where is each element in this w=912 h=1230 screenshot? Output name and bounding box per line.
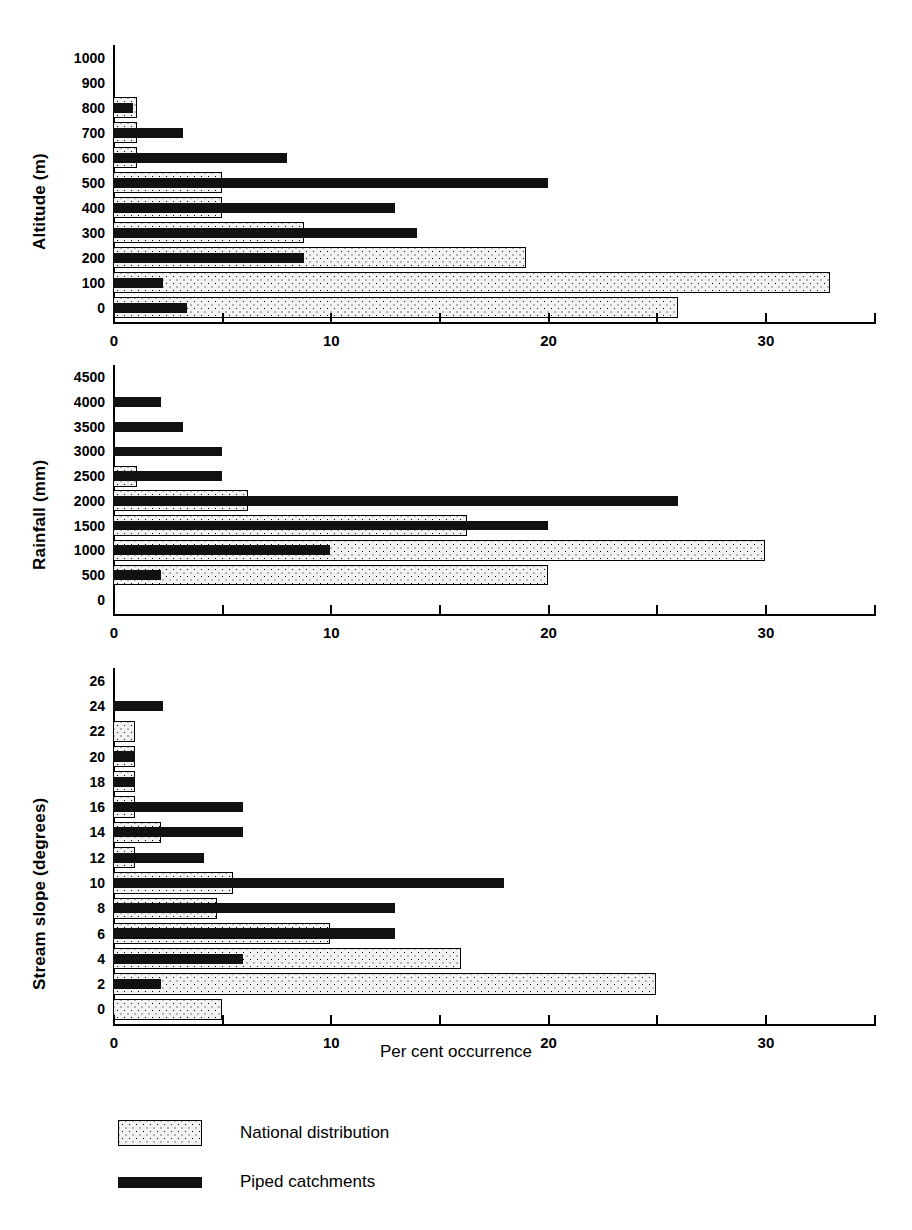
x-tick-label: 20 <box>540 332 557 349</box>
plot-area-1: 01002003004005006007008009001000 <box>113 45 874 320</box>
x-axis-line <box>113 1024 876 1026</box>
bar-piped-catchments <box>113 447 222 457</box>
legend-swatch-national <box>118 1120 202 1146</box>
y-tick-label: 200 <box>47 251 105 265</box>
y-tick-label: 0 <box>47 1002 105 1016</box>
y-tick-label: 20 <box>47 750 105 764</box>
bar-piped-catchments <box>113 954 243 964</box>
y-tick-label: 400 <box>47 201 105 215</box>
y-tick-label: 16 <box>47 800 105 814</box>
x-tick-mark <box>113 1015 115 1024</box>
y-tick-label: 900 <box>47 76 105 90</box>
bar-piped-catchments <box>113 521 548 531</box>
x-tick-mark <box>548 313 550 322</box>
chart-panel-3: Stream slope (degrees)024681012141618202… <box>0 668 912 1064</box>
y-tick-label: 2 <box>47 977 105 991</box>
bar-piped-catchments <box>113 928 395 938</box>
x-tick-label: 30 <box>758 624 775 641</box>
y-tick-label: 8 <box>47 901 105 915</box>
bar-piped-catchments <box>113 422 183 432</box>
legend-swatch-piped <box>118 1177 202 1188</box>
x-tick-minor <box>656 1015 658 1024</box>
bar-piped-catchments <box>113 802 243 812</box>
x-tick-minor <box>222 1015 224 1024</box>
y-tick-label: 500 <box>47 176 105 190</box>
x-tick-minor <box>222 313 224 322</box>
x-tick-label: 20 <box>540 624 557 641</box>
legend-item-national: National distribution <box>118 1120 389 1146</box>
bar-piped-catchments <box>113 471 222 481</box>
x-tick-minor <box>222 605 224 614</box>
bar-national-distribution <box>113 272 830 293</box>
x-tick-minor <box>439 1015 441 1024</box>
y-tick-label: 1500 <box>47 519 105 533</box>
chart-panel-2: Rainfall (mm)050010001500200025003000350… <box>0 365 912 654</box>
bar-piped-catchments <box>113 903 395 913</box>
bar-piped-catchments <box>113 853 204 863</box>
bar-piped-catchments <box>113 777 135 787</box>
bar-piped-catchments <box>113 751 135 761</box>
y-tick-label: 300 <box>47 226 105 240</box>
y-tick-label: 4500 <box>47 370 105 384</box>
bar-national-distribution <box>113 721 135 742</box>
bar-national-distribution <box>113 565 548 586</box>
y-tick-label: 18 <box>47 775 105 789</box>
x-tick-mark <box>765 605 767 614</box>
y-tick-label: 10 <box>47 876 105 890</box>
y-tick-label: 2000 <box>47 494 105 508</box>
y-tick-label: 1000 <box>47 51 105 65</box>
bar-piped-catchments <box>113 103 133 113</box>
x-tick-mark <box>330 605 332 614</box>
x-tick-label: 0 <box>110 332 118 349</box>
legend-label: Piped catchments <box>240 1172 375 1192</box>
x-tick-minor <box>439 605 441 614</box>
bar-national-distribution <box>113 999 222 1020</box>
x-tick-label: 10 <box>323 332 340 349</box>
x-tick-mark <box>765 313 767 322</box>
plot-area-3: 02468101214161820222426 <box>113 668 874 1022</box>
y-tick-label: 100 <box>47 276 105 290</box>
y-tick-label: 3000 <box>47 444 105 458</box>
bar-piped-catchments <box>113 278 163 288</box>
x-tick-mark <box>330 1015 332 1024</box>
x-axis-title: Per cent occurrence <box>0 1042 912 1062</box>
x-tick-minor <box>439 313 441 322</box>
bar-piped-catchments <box>113 701 163 711</box>
y-tick-label: 26 <box>47 674 105 688</box>
x-axis-line <box>113 614 876 616</box>
legend-label: National distribution <box>240 1123 389 1143</box>
bar-piped-catchments <box>113 496 678 506</box>
y-tick-label: 12 <box>47 851 105 865</box>
bar-piped-catchments <box>113 153 287 163</box>
y-tick-label: 6 <box>47 927 105 941</box>
bar-piped-catchments <box>113 570 161 580</box>
y-tick-label: 1000 <box>47 543 105 557</box>
bar-piped-catchments <box>113 545 330 555</box>
x-tick-minor <box>656 605 658 614</box>
plot-area-2: 050010001500200025003000350040004500 <box>113 365 874 612</box>
y-tick-label: 22 <box>47 724 105 738</box>
x-tick-mark <box>548 1015 550 1024</box>
x-tick-mark <box>330 313 332 322</box>
y-tick-label: 0 <box>47 593 105 607</box>
bar-piped-catchments <box>113 228 417 238</box>
y-tick-label: 800 <box>47 101 105 115</box>
bar-piped-catchments <box>113 303 187 313</box>
bar-piped-catchments <box>113 979 161 989</box>
y-tick-label: 14 <box>47 825 105 839</box>
x-tick-minor <box>874 1015 876 1024</box>
y-tick-label: 4 <box>47 952 105 966</box>
x-tick-minor <box>874 605 876 614</box>
y-tick-label: 3500 <box>47 420 105 434</box>
x-tick-label: 10 <box>323 624 340 641</box>
x-tick-mark <box>765 1015 767 1024</box>
bar-piped-catchments <box>113 878 504 888</box>
legend-item-piped: Piped catchments <box>118 1172 375 1192</box>
y-tick-label: 4000 <box>47 395 105 409</box>
y-tick-label: 700 <box>47 126 105 140</box>
bar-piped-catchments <box>113 203 395 213</box>
x-tick-minor <box>874 313 876 322</box>
x-tick-mark <box>113 605 115 614</box>
bar-piped-catchments <box>113 253 304 263</box>
x-tick-label: 30 <box>758 332 775 349</box>
